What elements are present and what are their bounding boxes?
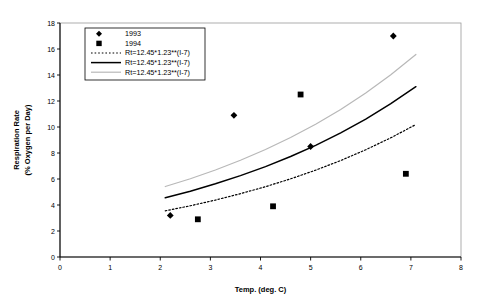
data-point-marker-diamond xyxy=(390,33,397,40)
legend-label-1: 1994 xyxy=(125,39,141,48)
x-axis-tick-label: 7 xyxy=(409,264,413,271)
y-axis-tick-label: 2 xyxy=(51,228,55,235)
data-point-marker-square xyxy=(270,203,276,209)
x-axis-tick-label: 1 xyxy=(108,264,112,271)
data-point-marker-square xyxy=(195,216,201,222)
y-axis-title-line-2: (% Oxygen per Day) xyxy=(23,104,32,175)
legend-swatch-square xyxy=(96,41,101,46)
x-axis-title: Temp. (deg. C) xyxy=(235,285,287,294)
y-axis-title-line-1: Respiration Rate xyxy=(12,110,21,170)
legend-label-2: Rt=12.45*1.23**(I-7) xyxy=(125,48,190,57)
x-axis-tick-label: 0 xyxy=(58,264,62,271)
y-axis-tick-label: 16 xyxy=(47,46,55,53)
x-axis-tick-label: 3 xyxy=(208,264,212,271)
fit-curve-solid xyxy=(165,87,416,198)
y-axis-tick-label: 8 xyxy=(51,150,55,157)
x-axis-tick-label: 5 xyxy=(309,264,313,271)
x-axis-tick-label: 2 xyxy=(158,264,162,271)
legend-label-3: Rt=12.45*1.23**(I-7) xyxy=(125,58,190,67)
legend-label-0: 1993 xyxy=(125,29,141,38)
y-axis-tick-label: 10 xyxy=(47,124,55,131)
x-axis-tick-label: 8 xyxy=(459,264,463,271)
y-axis-tick-label: 18 xyxy=(47,20,55,27)
chart-canvas: 024681012141618012345678Temp. (deg. C)Re… xyxy=(0,0,501,302)
respiration-rate-chart: 024681012141618012345678Temp. (deg. C)Re… xyxy=(0,0,501,302)
y-axis-tick-label: 0 xyxy=(51,254,55,261)
y-axis-tick-label: 4 xyxy=(51,202,55,209)
data-point-marker-diamond xyxy=(167,212,174,219)
data-point-marker-square xyxy=(403,171,409,177)
data-point-marker-square xyxy=(298,92,304,98)
data-point-marker-diamond xyxy=(231,112,238,119)
x-axis-tick-label: 4 xyxy=(259,264,263,271)
y-axis-tick-label: 12 xyxy=(47,98,55,105)
legend-label-4: Rt=12.45*1.23**(I-7) xyxy=(125,68,190,77)
y-axis-tick-label: 6 xyxy=(51,176,55,183)
x-axis-tick-label: 6 xyxy=(359,264,363,271)
y-axis-tick-label: 14 xyxy=(47,72,55,79)
